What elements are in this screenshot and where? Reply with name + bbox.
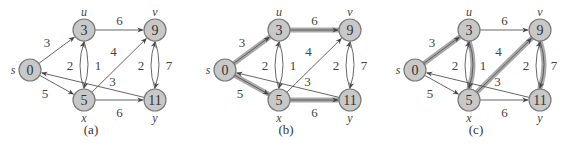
edge-weight: 1	[480, 58, 487, 73]
edge-weight: 3	[494, 74, 501, 89]
edge-u-x	[279, 41, 283, 88]
node-distance: 0	[222, 63, 229, 78]
node-distance: 11	[343, 93, 356, 108]
node-distance: 5	[466, 93, 473, 108]
node-distance: 9	[347, 23, 354, 38]
panel-caption: (a)	[84, 122, 98, 137]
node-y: 11y	[529, 89, 551, 125]
edge-weight: 6	[501, 13, 508, 28]
node-distance: 11	[148, 93, 161, 108]
node-name: v	[537, 5, 543, 19]
edge-weight: 3	[239, 35, 246, 50]
node-s: 0s	[396, 59, 426, 81]
edge-weight: 4	[495, 44, 502, 59]
edge-weight: 7	[551, 58, 558, 73]
edge-weight: 5	[427, 86, 434, 101]
node-s: 0s	[206, 59, 236, 81]
edge-weight: 3	[109, 74, 116, 89]
node-name: y	[536, 111, 543, 125]
node-name: s	[11, 63, 16, 77]
node-distance: 3	[81, 23, 88, 38]
node-name: s	[396, 63, 401, 77]
node-v: 9v	[339, 5, 361, 41]
node-x: 5x	[73, 89, 95, 125]
node-distance: 5	[276, 93, 283, 108]
node-y: 11y	[339, 89, 361, 125]
edge-weight: 4	[110, 44, 117, 59]
node-distance: 0	[27, 63, 34, 78]
shortest-paths-figure: 35621462730s3u9v5x11y(a)35621462730s3u9v…	[0, 0, 583, 148]
edge-y-v	[151, 42, 155, 89]
node-name: u	[466, 5, 472, 19]
edge-weight: 1	[95, 58, 102, 73]
edge-weight: 1	[290, 58, 297, 73]
edge-weight: 6	[116, 105, 123, 120]
edge-weight: 6	[501, 105, 508, 120]
node-v: 9v	[144, 5, 166, 41]
edge-y-v	[346, 42, 350, 89]
node-name: y	[346, 111, 353, 125]
edge-weight: 6	[116, 13, 123, 28]
node-distance: 9	[537, 23, 544, 38]
node-name: v	[152, 5, 158, 19]
node-y: 11y	[144, 89, 166, 125]
edge-weight: 3	[44, 35, 51, 50]
node-s: 0s	[11, 59, 41, 81]
edge-weight: 3	[429, 35, 436, 50]
node-v: 9v	[529, 5, 551, 41]
edge-weight: 2	[262, 58, 269, 73]
edge-weight: 6	[311, 13, 318, 28]
node-distance: 3	[466, 23, 473, 38]
edge-weight: 5	[42, 86, 49, 101]
node-x: 5x	[458, 89, 480, 125]
panel-b: 35621462730s3u9v5x11y(b)	[206, 5, 368, 137]
node-name: v	[347, 5, 353, 19]
edge-weight: 2	[67, 58, 74, 73]
edge-weight: 5	[237, 86, 244, 101]
node-distance: 11	[533, 93, 546, 108]
node-u: 3u	[73, 5, 95, 41]
edge-weight: 2	[333, 58, 340, 73]
edge-weight: 7	[361, 58, 368, 73]
node-x: 5x	[268, 89, 290, 125]
node-u: 3u	[458, 5, 480, 41]
edge-u-x	[84, 41, 88, 88]
node-name: y	[151, 111, 158, 125]
panel-c: 35621462730s3u9v5x11y(c)	[396, 5, 558, 137]
edge-v-y	[350, 41, 354, 88]
node-name: s	[206, 63, 211, 77]
edge-weight: 2	[452, 58, 459, 73]
edge-weight: 4	[305, 44, 312, 59]
node-name: u	[276, 5, 282, 19]
edge-weight: 6	[311, 105, 318, 120]
panel-caption: (b)	[278, 122, 293, 137]
edge-weight: 3	[304, 74, 311, 89]
node-u: 3u	[268, 5, 290, 41]
node-distance: 3	[276, 23, 283, 38]
node-distance: 5	[81, 93, 88, 108]
node-name: u	[81, 5, 87, 19]
node-distance: 9	[152, 23, 159, 38]
edge-v-y	[155, 41, 159, 88]
edge-weight: 7	[166, 58, 173, 73]
node-distance: 0	[412, 63, 419, 78]
panel-caption: (c)	[469, 122, 483, 137]
edge-weight: 2	[138, 58, 145, 73]
panel-a: 35621462730s3u9v5x11y(a)	[11, 5, 173, 137]
edge-weight: 2	[523, 58, 530, 73]
